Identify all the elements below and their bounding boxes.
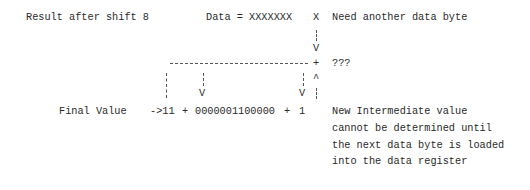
plus-operator: + [182,105,188,117]
need-data-byte-note: Need another data byte [332,11,467,23]
explanation-line-2: cannot be determined until [332,122,492,134]
binary-value: 0000001100000 [195,105,275,117]
connector-left [166,73,167,98]
arrow-down-icon: V [313,42,319,54]
connector-mid [203,73,204,86]
plus-operator: + [284,105,290,117]
connector-up [316,88,317,99]
result-after-shift-label: Result after shift 8 [26,11,149,23]
explanation-line-3: the next data byte is loaded [332,139,504,151]
data-register-label: Data = XXXXXXX [206,11,292,23]
arrow-eleven: ->11 [150,105,175,117]
explanation-line-4: into the data register [332,155,467,167]
connector-horizontal [170,63,308,64]
connector-right [303,73,304,86]
arrow-down-icon: V [199,87,205,99]
arrow-up-icon: ^ [313,72,319,84]
final-value-label: Final Value [59,105,127,117]
unknown-value: ??? [332,57,350,69]
arrow-down-icon: V [299,87,305,99]
next-bit-label: X [313,11,319,23]
plus-junction: + [313,57,319,69]
connector-x-down [316,30,317,41]
explanation-line-1: New Intermediate value [332,105,467,117]
addend-one: 1 [299,105,305,117]
